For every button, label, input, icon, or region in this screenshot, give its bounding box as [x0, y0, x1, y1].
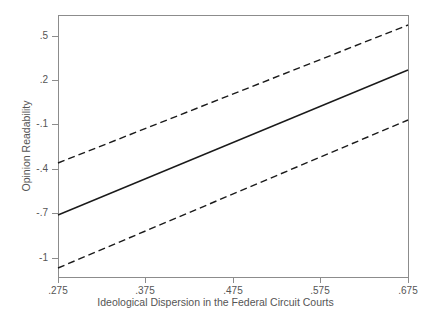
y-tick-marks — [52, 36, 58, 258]
data-series-group — [58, 25, 408, 268]
x-axis-title: Ideological Dispersion in the Federal Ci… — [0, 296, 431, 308]
plot-canvas — [0, 0, 431, 320]
x-tick-label-4: .675 — [378, 285, 431, 296]
x-tick-label-0: .275 — [28, 285, 88, 296]
y-tick-label-5: -1 — [14, 252, 48, 263]
x-tick-label-3: .575 — [290, 285, 350, 296]
axis-frame — [58, 15, 408, 277]
x-tick-marks — [58, 277, 408, 283]
x-tick-label-1: .375 — [115, 285, 175, 296]
x-tick-label-2: .475 — [203, 285, 263, 296]
chart-figure: .5 .2 -.1 -.4 -.7 -1 .275 .375 .475 .575… — [0, 0, 431, 320]
y-axis-title: Opinion Readability — [20, 66, 32, 226]
y-tick-label-0: .5 — [14, 30, 48, 41]
